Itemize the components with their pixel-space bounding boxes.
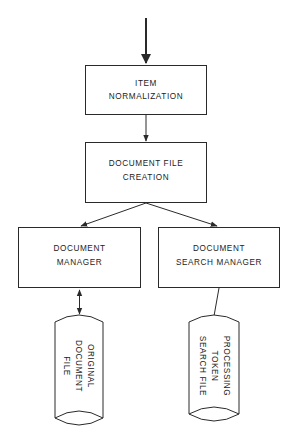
document-file-creation-line2: CREATION xyxy=(123,173,170,182)
document-search-manager-line1: DOCUMENT xyxy=(193,244,245,253)
item-normalization-line2: NORMALIZATION xyxy=(109,92,184,101)
document-file-creation-line1: DOCUMENT FILE xyxy=(109,159,184,168)
document-manager-box: DOCUMENT MANAGER xyxy=(19,228,141,288)
document-manager-line2: MANAGER xyxy=(57,258,103,267)
arrow-creation-to-search-manager xyxy=(146,203,217,226)
original-document-file-line1: ORIGINAL xyxy=(86,344,95,388)
document-manager-line1: DOCUMENT xyxy=(53,244,105,253)
document-search-manager-box: DOCUMENT SEARCH MANAGER xyxy=(159,228,280,288)
processing-token-search-file-cylinder: PROCESSING TOKEN SEARCH FILE xyxy=(189,315,239,421)
processing-token-file-line1: PROCESSING xyxy=(222,336,231,397)
line-search-manager-to-token-file xyxy=(214,288,219,316)
item-normalization-box: ITEM NORMALIZATION xyxy=(86,66,207,115)
document-search-manager-line2: SEARCH MANAGER xyxy=(176,258,262,267)
processing-token-file-line2: TOKEN xyxy=(210,350,219,381)
original-document-file-line2: DOCUMENT xyxy=(74,340,83,392)
original-document-file-line3: FILE xyxy=(62,356,71,376)
original-document-file-cylinder: ORIGINAL DOCUMENT FILE xyxy=(55,315,103,425)
flowchart-canvas: ITEM NORMALIZATION DOCUMENT FILE CREATIO… xyxy=(0,0,292,438)
item-normalization-line1: ITEM xyxy=(135,79,157,88)
processing-token-file-line3: SEARCH FILE xyxy=(198,336,207,396)
document-file-creation-box: DOCUMENT FILE CREATION xyxy=(86,143,207,203)
arrow-creation-to-document-manager xyxy=(81,203,146,226)
